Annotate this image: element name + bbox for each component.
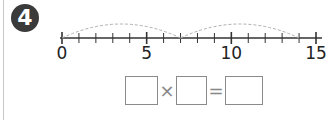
multiply-sign: ×: [158, 76, 176, 106]
svg-text:10: 10: [221, 43, 243, 63]
svg-text:5: 5: [141, 43, 152, 63]
product-box[interactable]: [225, 76, 263, 105]
svg-text:15: 15: [305, 43, 327, 63]
svg-text:0: 0: [57, 43, 68, 63]
number-line: 051015: [0, 0, 336, 70]
number-line-labels: 051015: [57, 43, 327, 63]
factor-2-box[interactable]: [176, 76, 207, 105]
factor-1-box[interactable]: [125, 76, 158, 105]
equals-sign: =: [207, 76, 225, 106]
equation: × =: [0, 76, 336, 108]
